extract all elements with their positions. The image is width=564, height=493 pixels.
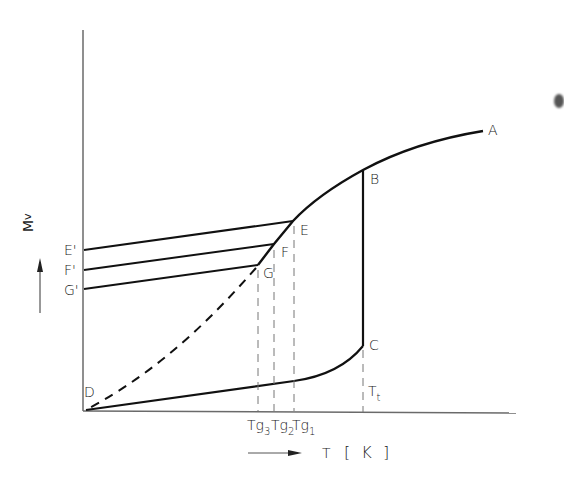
tick-Tg3-sub: 3: [264, 426, 270, 437]
dashed-curve-G-to-D: [86, 268, 256, 410]
x-arrow-head-icon: [288, 450, 302, 456]
point-label-G-prime: G': [64, 283, 79, 297]
tick-Tg3-T: T: [247, 417, 256, 433]
x-axis: [83, 411, 516, 413]
x-axis-label-unit: [ K ]: [344, 445, 389, 461]
point-label-E-prime: E': [64, 243, 77, 257]
tick-label-Tg2: Tg2: [271, 418, 294, 432]
point-label-D: D: [84, 385, 95, 399]
tick-label-Tg1: Tg1: [292, 418, 315, 432]
scan-artifact-spot: [554, 94, 564, 108]
tick-label-Tt: Tt: [368, 384, 380, 398]
point-label-C: C: [369, 338, 379, 352]
point-label-B: B: [370, 172, 379, 186]
tick-Tg2-T: T: [271, 417, 280, 433]
point-label-G: G: [263, 266, 274, 280]
point-label-F: F: [281, 245, 289, 259]
y-axis-label: Mv: [20, 213, 36, 232]
y-arrow-head-icon: [37, 258, 43, 272]
tick-Tg1-g: g: [301, 417, 309, 433]
tick-Tt-T: T: [368, 383, 377, 399]
glass-line-G: [84, 265, 258, 289]
x-axis-label-T: T: [322, 446, 331, 460]
y-axis-label-main: M: [20, 220, 36, 232]
tick-Tg1-sub: 1: [309, 426, 315, 437]
tick-Tg1-T: T: [292, 417, 301, 433]
tick-Tg3-g: g: [256, 417, 264, 433]
tick-label-Tg3: Tg3: [247, 418, 270, 432]
crystal-curve-D-to-C: [86, 346, 363, 410]
point-label-F-prime: F': [64, 263, 76, 277]
tick-Tg2-g: g: [280, 417, 288, 433]
point-label-A: A: [488, 123, 498, 137]
liquid-curve-A-to-G: [258, 131, 483, 265]
tick-Tt-sub: t: [377, 392, 381, 403]
point-label-E: E: [300, 223, 309, 237]
y-axis-label-sub: v: [21, 213, 34, 220]
